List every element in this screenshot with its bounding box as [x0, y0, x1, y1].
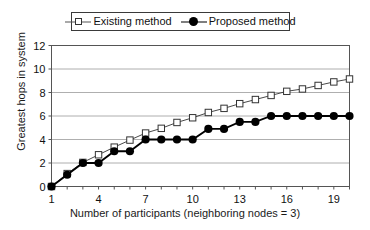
data-point-marker — [298, 112, 306, 120]
data-point-marker — [94, 159, 102, 167]
y-tick-label: 0 — [39, 181, 45, 193]
data-point-marker — [158, 125, 164, 131]
x-tick-labels: 14710131619 — [48, 193, 340, 205]
data-point-marker — [314, 112, 322, 120]
data-point-marker — [142, 135, 150, 143]
y-axis-title: Greatest hops in system — [16, 17, 27, 167]
data-point-marker — [79, 159, 87, 167]
data-point-marker — [267, 112, 275, 120]
y-tick-label: 8 — [39, 87, 45, 99]
data-point-marker — [47, 182, 55, 190]
data-point-marker — [173, 135, 181, 143]
x-tick-label: 16 — [281, 193, 293, 205]
series-proposed-method — [47, 112, 353, 191]
data-point-marker — [268, 92, 274, 98]
data-point-marker — [189, 135, 197, 143]
y-tick-label: 12 — [33, 40, 45, 52]
data-point-marker — [110, 147, 118, 155]
data-point-marker — [157, 135, 165, 143]
data-point-marker — [331, 79, 337, 85]
data-point-marker — [251, 118, 259, 126]
chart-figure: Existing method Proposed method 02468101… — [0, 0, 370, 230]
data-point-marker — [284, 88, 290, 94]
y-tick-label: 10 — [33, 63, 45, 75]
data-point-marker — [330, 112, 338, 120]
y-tick-label: 2 — [39, 157, 45, 169]
data-point-marker — [345, 112, 353, 120]
data-point-marker — [189, 115, 195, 121]
data-point-marker — [346, 76, 352, 82]
data-point-marker — [315, 82, 321, 88]
data-point-marker — [205, 109, 211, 115]
data-point-marker — [299, 86, 305, 92]
x-tick-label: 7 — [143, 193, 149, 205]
plot-canvas: 024681012 14710131619 — [0, 0, 370, 230]
x-tick-label: 1 — [48, 193, 54, 205]
x-tick-label: 19 — [328, 193, 340, 205]
data-point-marker — [127, 137, 133, 143]
x-axis-title: Number of participants (neighboring node… — [0, 208, 370, 219]
x-tick-label: 4 — [95, 193, 101, 205]
y-tick-labels: 024681012 — [33, 40, 45, 193]
data-point-marker — [95, 152, 101, 158]
data-point-marker — [126, 147, 134, 155]
data-point-marker — [142, 130, 148, 136]
data-point-marker — [204, 125, 212, 133]
data-point-marker — [221, 105, 227, 111]
y-tick-label: 6 — [39, 110, 45, 122]
data-point-marker — [63, 171, 71, 179]
data-point-marker — [283, 112, 291, 120]
y-tick-label: 4 — [39, 134, 45, 146]
data-point-marker — [220, 125, 228, 133]
data-point-marker — [236, 118, 244, 126]
x-tick-label: 10 — [187, 193, 199, 205]
data-point-marker — [174, 119, 180, 125]
x-tick-label: 13 — [234, 193, 246, 205]
data-point-marker — [237, 100, 243, 106]
data-point-marker — [252, 96, 258, 102]
